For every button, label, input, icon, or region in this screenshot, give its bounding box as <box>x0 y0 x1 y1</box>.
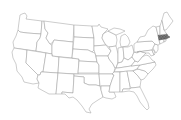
us-map-svg <box>0 0 181 120</box>
state-arizona[interactable] <box>37 72 58 94</box>
state-new-mexico[interactable] <box>56 73 74 94</box>
state-north-dakota[interactable] <box>74 25 94 38</box>
us-map: Contiguous United States Massachusetts <box>0 0 181 120</box>
state-rhode-island[interactable] <box>164 39 166 42</box>
state-colorado[interactable] <box>58 57 79 74</box>
state-wyoming[interactable] <box>52 40 73 58</box>
state-maine[interactable] <box>162 12 173 30</box>
state-washington[interactable] <box>18 13 42 34</box>
state-kansas[interactable] <box>78 61 99 73</box>
state-florida[interactable] <box>122 87 149 110</box>
